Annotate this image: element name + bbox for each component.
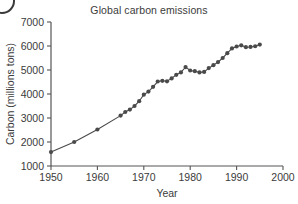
chart-screenshot: Global carbon emissions 1000200030004000…: [0, 0, 298, 204]
x-tick-label: 1990: [225, 171, 249, 183]
data-point: [151, 85, 155, 89]
data-point: [258, 42, 262, 46]
series-markers: [49, 42, 262, 154]
x-tick-label: 1980: [179, 171, 203, 183]
data-point: [165, 79, 169, 83]
y-tick-label: 4000: [21, 88, 45, 100]
axis-tick-marks: [47, 22, 283, 170]
data-point: [230, 46, 234, 50]
data-point: [248, 45, 252, 49]
x-tick-label: 1970: [132, 171, 156, 183]
data-point: [95, 127, 99, 131]
y-tick-label: 5000: [21, 64, 45, 76]
data-point: [123, 110, 127, 114]
data-point: [72, 140, 76, 144]
data-point: [160, 79, 164, 83]
data-point: [174, 73, 178, 77]
x-axis-tick-labels: 195019601970198019902000: [39, 171, 295, 183]
data-point: [216, 60, 220, 64]
data-point: [142, 93, 146, 97]
data-point: [156, 79, 160, 83]
data-point: [188, 68, 192, 72]
data-point: [211, 63, 215, 67]
x-axis-title: Year: [156, 187, 178, 199]
line-chart: 1000200030004000500060007000 19501960197…: [0, 0, 298, 204]
y-tick-label: 7000: [21, 16, 45, 28]
data-point: [244, 45, 248, 49]
data-point: [170, 76, 174, 80]
data-point: [239, 43, 243, 47]
y-tick-label: 1000: [21, 160, 45, 172]
data-point: [235, 44, 239, 48]
data-point: [193, 69, 197, 73]
y-tick-label: 3000: [21, 112, 45, 124]
y-axis-title: Carbon (millions tons): [4, 43, 16, 145]
y-tick-label: 6000: [21, 40, 45, 52]
data-point: [119, 114, 123, 118]
data-point: [179, 70, 183, 74]
y-axis-tick-labels: 1000200030004000500060007000: [21, 16, 45, 172]
data-point: [137, 99, 141, 103]
data-point: [225, 51, 229, 55]
series-line-global-carbon-emissions: [51, 45, 260, 153]
data-point: [207, 66, 211, 70]
data-point: [221, 56, 225, 60]
data-point: [146, 90, 150, 94]
x-tick-label: 2000: [271, 171, 295, 183]
x-tick-label: 1960: [86, 171, 110, 183]
data-point: [202, 70, 206, 74]
data-point: [253, 44, 257, 48]
data-point: [197, 70, 201, 74]
x-tick-label: 1950: [39, 171, 63, 183]
data-point: [49, 150, 53, 154]
data-point: [132, 104, 136, 108]
data-point: [183, 65, 187, 69]
data-point: [128, 108, 132, 112]
y-tick-label: 2000: [21, 136, 45, 148]
